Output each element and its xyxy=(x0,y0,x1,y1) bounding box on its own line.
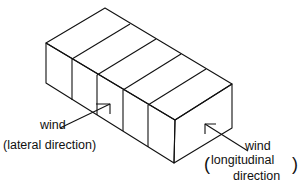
paren-open: ( xyxy=(204,154,210,174)
lateral-direction-label: (lateral direction) xyxy=(3,138,96,152)
lateral-wind-label: wind xyxy=(39,118,66,132)
longitudinal-detail-line2: direction xyxy=(233,169,280,183)
building-diagram: wind (lateral direction) wind ( longitud… xyxy=(0,0,298,188)
roof-divider xyxy=(123,54,181,90)
end-face xyxy=(174,84,232,163)
roof-divider xyxy=(97,39,156,75)
roof-divider xyxy=(72,24,130,59)
longitudinal-wind-label: wind xyxy=(244,139,271,153)
paren-close: ) xyxy=(292,154,298,174)
longitudinal-wind-arrow-icon xyxy=(205,124,248,151)
roof-face xyxy=(46,8,232,120)
longitudinal-detail-line1: longitudinal xyxy=(211,153,274,167)
roof-divider xyxy=(148,69,206,105)
